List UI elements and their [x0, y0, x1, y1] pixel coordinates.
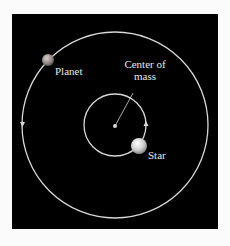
center-of-mass-label-line1: Center of — [124, 58, 166, 70]
star-icon — [131, 138, 147, 154]
center-of-mass-dot — [113, 124, 117, 128]
center-of-mass-label-line2: mass — [134, 70, 156, 82]
planet-direction-arrow-icon — [20, 122, 25, 127]
star-label: Star — [148, 149, 166, 161]
planet-icon — [42, 54, 54, 66]
orbit-diagram: Planet Center of mass Star — [0, 0, 230, 246]
center-of-mass-pointer — [115, 93, 133, 126]
star-direction-arrow-icon — [144, 121, 149, 126]
planet-label: Planet — [55, 65, 83, 77]
